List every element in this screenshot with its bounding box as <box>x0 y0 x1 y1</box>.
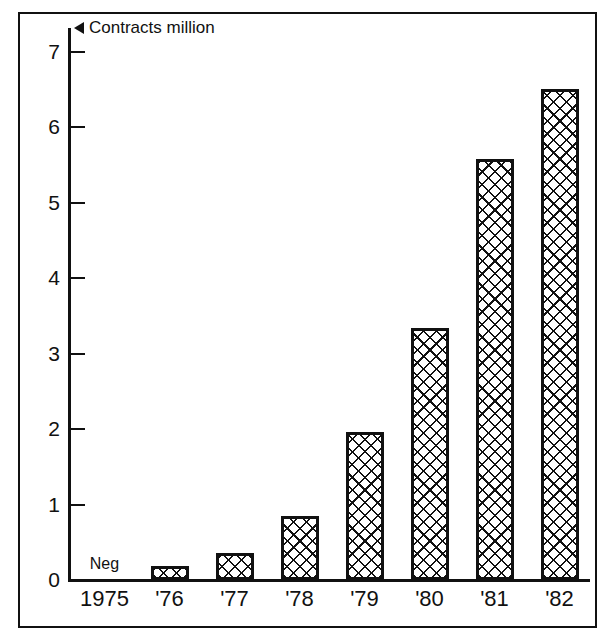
y-axis-unit-label: Contracts million <box>74 19 215 36</box>
y-tick-label: 1 <box>34 494 60 515</box>
y-tick-mark <box>71 126 85 128</box>
y-tick-label: 4 <box>34 267 60 288</box>
bar-77 <box>216 553 254 580</box>
chart-figure: Contracts million 01234567 Neg1975'76'77… <box>0 0 610 638</box>
x-tick-label-82: '82 <box>526 588 594 610</box>
y-tick-mark <box>71 353 85 355</box>
y-tick-label: 7 <box>34 41 60 62</box>
y-tick-mark <box>71 277 85 279</box>
left-triangle-icon <box>74 22 84 34</box>
x-tick-label-77: '77 <box>201 588 269 610</box>
y-axis-line <box>68 28 71 582</box>
x-tick-label-80: '80 <box>396 588 464 610</box>
y-tick-mark <box>71 51 85 53</box>
y-tick-label: 5 <box>34 192 60 213</box>
x-tick-label-1975: 1975 <box>71 588 139 610</box>
x-tick-label-76: '76 <box>136 588 204 610</box>
bar-78 <box>281 516 319 580</box>
x-tick-label-78: '78 <box>266 588 334 610</box>
bar-80 <box>411 328 449 580</box>
y-tick-mark <box>71 428 85 430</box>
y-axis-unit-text: Contracts million <box>89 18 215 37</box>
y-tick-label: 0 <box>34 569 60 590</box>
y-tick-label: 2 <box>34 418 60 439</box>
y-tick-mark <box>71 202 85 204</box>
bar-79 <box>346 432 384 580</box>
y-tick-mark <box>71 504 85 506</box>
bar-82 <box>541 89 579 580</box>
x-tick-label-79: '79 <box>331 588 399 610</box>
y-tick-label: 3 <box>34 343 60 364</box>
bar-value-label-1975: Neg <box>75 556 135 572</box>
bar-76 <box>151 566 189 580</box>
x-tick-label-81: '81 <box>461 588 529 610</box>
bar-81 <box>476 159 514 580</box>
plot-area: Contracts million 01234567 Neg1975'76'77… <box>0 0 610 638</box>
y-tick-label: 6 <box>34 116 60 137</box>
